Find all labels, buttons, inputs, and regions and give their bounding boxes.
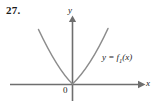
origin-label: 0	[63, 86, 68, 95]
graph-canvas	[0, 0, 156, 109]
y-axis	[69, 16, 76, 102]
y-axis-arrowhead	[69, 16, 76, 23]
x-axis	[10, 81, 146, 88]
figure-container: 27. y x 0 y = f1(x)	[0, 0, 156, 109]
x-axis-label: x	[146, 79, 150, 88]
curve-equation-label: y = f1(x)	[102, 53, 132, 64]
x-axis-arrowhead	[138, 81, 146, 88]
curve-equation-prefix: y = f	[102, 52, 119, 62]
y-axis-label: y	[68, 6, 72, 15]
curve-equation-suffix: (x)	[122, 52, 132, 62]
